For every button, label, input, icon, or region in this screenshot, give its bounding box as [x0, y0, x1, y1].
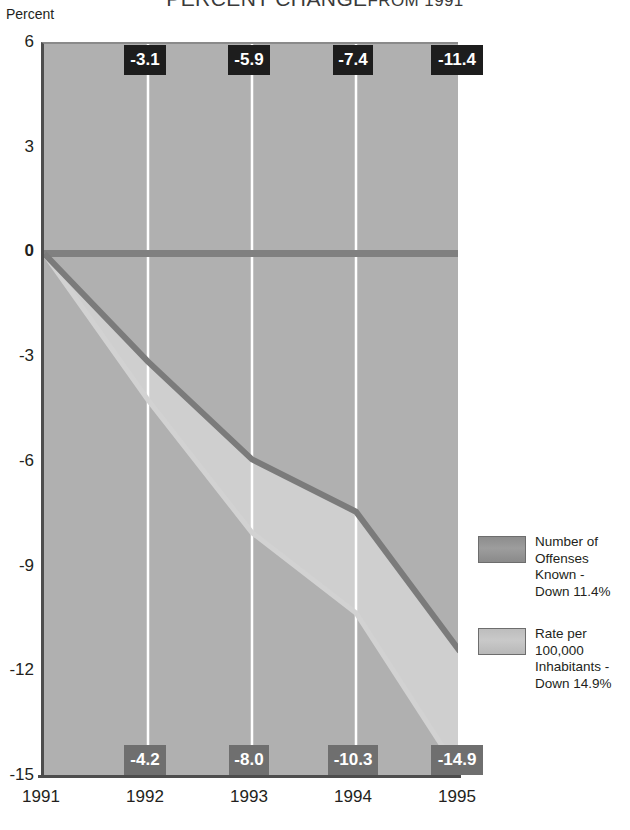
data-label--10.3: -10.3	[328, 745, 378, 775]
chart-root: PERCENT CHANGEFROM 1991 Percent 630-3-6-…	[0, 0, 630, 830]
data-label--14.9: -14.9	[431, 745, 483, 775]
y-tick--9: -9	[0, 557, 34, 574]
legend-offenses-line2: Offenses Known -	[535, 551, 628, 584]
legend-rate-line3: Down 14.9%	[535, 676, 628, 693]
x-tick-1993: 1993	[209, 787, 289, 807]
chart-title-tail: FROM 1991	[368, 0, 464, 10]
x-axis-line	[38, 775, 461, 778]
plot-graphics	[44, 44, 458, 775]
legend-item-offenses[interactable]: Number of Offenses Known - Down 11.4%	[478, 534, 628, 600]
plot-area	[41, 42, 458, 775]
data-label--3.1: -3.1	[124, 45, 166, 75]
chart-title: PERCENT CHANGEFROM 1991	[0, 0, 630, 11]
y-tick--6: -6	[0, 452, 34, 469]
data-label--7.4: -7.4	[333, 45, 373, 75]
data-label--11.4: -11.4	[431, 45, 483, 75]
legend-swatch-offenses	[478, 536, 526, 563]
y-tick-6: 6	[0, 33, 34, 50]
legend-offenses-line1: Number of	[535, 534, 628, 551]
y-tick--15: -15	[0, 766, 34, 783]
legend-label-rate: Rate per 100,000 Inhabitants - Down 14.9…	[535, 626, 628, 692]
y-tick--3: -3	[0, 347, 34, 364]
y-tick-3: 3	[0, 138, 34, 155]
legend-rate-line2: Inhabitants -	[535, 659, 628, 676]
legend-label-offenses: Number of Offenses Known - Down 11.4%	[535, 534, 628, 600]
chart-title-main: PERCENT CHANGE	[166, 0, 367, 10]
x-tick-1991: 1991	[1, 787, 81, 807]
y-axis-label: Percent	[6, 6, 54, 22]
x-tick-1995: 1995	[417, 787, 497, 807]
legend-rate-line1: Rate per 100,000	[535, 626, 628, 659]
legend-swatch-rate	[478, 628, 526, 655]
x-tick-1994: 1994	[313, 787, 393, 807]
legend: Number of Offenses Known - Down 11.4% Ra…	[478, 534, 628, 718]
legend-offenses-line3: Down 11.4%	[535, 584, 628, 601]
x-tick-1992: 1992	[105, 787, 185, 807]
data-label--8.0: -8.0	[229, 745, 269, 775]
data-label--4.2: -4.2	[124, 745, 166, 775]
y-tick-0: 0	[0, 242, 34, 259]
data-label--5.9: -5.9	[228, 45, 270, 75]
y-tick--12: -12	[0, 661, 34, 678]
legend-item-rate[interactable]: Rate per 100,000 Inhabitants - Down 14.9…	[478, 626, 628, 692]
